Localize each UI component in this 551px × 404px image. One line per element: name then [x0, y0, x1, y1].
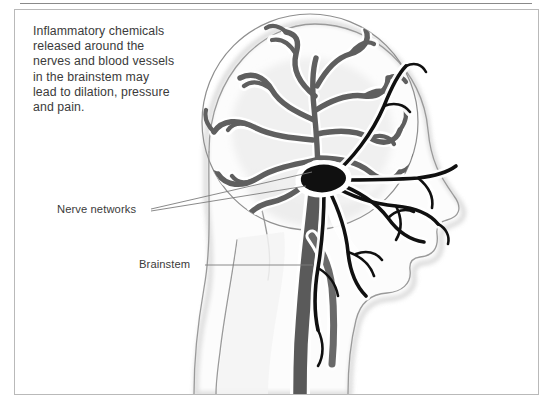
- caption-text: Inflammatory chemicals released around t…: [33, 24, 238, 115]
- label-brainstem: Brainstem: [139, 258, 190, 270]
- caption-line-3: nerves and blood vessels: [33, 54, 238, 69]
- caption-line-1: Inflammatory chemicals: [33, 24, 238, 39]
- caption-line-4: in the brainstem may: [33, 70, 238, 85]
- caption-line-2: released around the: [33, 39, 238, 54]
- caption-line-5: lead to dilation, pressure: [33, 85, 238, 100]
- figure-frame: Inflammatory chemicals released around t…: [0, 0, 551, 404]
- caption-line-6: and pain.: [33, 100, 238, 115]
- label-nerve-networks: Nerve networks: [57, 203, 136, 215]
